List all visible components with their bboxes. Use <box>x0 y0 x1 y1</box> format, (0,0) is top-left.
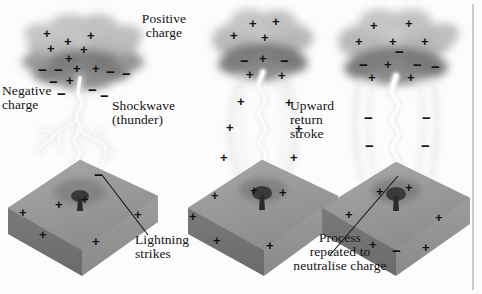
charge-minus: − <box>106 64 115 79</box>
charge-plus: + <box>211 189 219 202</box>
charge-plus: + <box>405 181 413 194</box>
label-upward-return-stroke: Upward return stroke <box>290 99 362 141</box>
charge-plus: + <box>92 62 100 75</box>
charge-minus: − <box>422 110 431 125</box>
charge-plus: + <box>226 121 234 134</box>
charge-plus: + <box>73 62 81 75</box>
charge-minus: − <box>94 167 103 182</box>
charge-plus: + <box>87 29 95 42</box>
charge-minus: − <box>431 59 440 74</box>
charge-minus: − <box>359 57 368 72</box>
charge-plus: + <box>220 151 228 164</box>
charge-plus: + <box>421 35 429 48</box>
charge-plus: + <box>272 15 280 28</box>
charge-plus: + <box>81 193 89 206</box>
label-positive-charge: Positive charge <box>118 12 210 40</box>
charge-plus: + <box>65 52 73 65</box>
charge-plus: + <box>237 95 245 108</box>
charge-plus: + <box>370 19 378 32</box>
charge-plus: + <box>134 208 142 221</box>
charge-plus: + <box>422 241 430 254</box>
charge-plus: + <box>376 185 384 198</box>
charge-minus: − <box>421 138 430 153</box>
charge-plus: + <box>55 198 63 211</box>
charge-plus: + <box>249 17 257 30</box>
charge-plus: + <box>345 208 353 221</box>
charge-plus: + <box>47 42 55 55</box>
charge-minus: − <box>88 82 97 97</box>
charge-plus: + <box>189 210 197 223</box>
charge-minus: − <box>122 66 131 81</box>
charge-plus: + <box>368 71 376 84</box>
charge-plus: + <box>405 17 413 30</box>
charge-plus: + <box>92 235 100 248</box>
charge-plus: + <box>407 71 415 84</box>
charge-plus: + <box>384 58 392 71</box>
charge-minus: − <box>364 110 373 125</box>
charge-plus: + <box>259 52 267 65</box>
charge-minus: − <box>395 44 404 59</box>
charge-minus: − <box>240 53 249 68</box>
label-process-repeated: Process repeated to neutralise charge <box>268 231 412 273</box>
charge-minus: − <box>100 88 109 103</box>
figure-canvas: + + + + + + − − + + − − + − − − − − + + … <box>0 0 482 294</box>
charge-plus: + <box>80 43 88 56</box>
charge-plus: + <box>39 228 47 241</box>
charge-plus: + <box>261 31 269 44</box>
label-negative-charge: Negative charge <box>2 84 78 112</box>
charge-plus: + <box>290 151 298 164</box>
charge-plus: + <box>43 27 51 40</box>
charge-plus: + <box>19 206 27 219</box>
charge-plus: + <box>278 69 286 82</box>
charge-plus: + <box>250 184 258 197</box>
charge-minus: − <box>38 62 47 77</box>
charge-plus: + <box>246 68 254 81</box>
charge-plus: + <box>230 29 238 42</box>
charge-plus: + <box>355 35 363 48</box>
charge-minus: − <box>365 138 374 153</box>
charge-plus: + <box>279 186 287 199</box>
charge-plus: + <box>435 211 443 224</box>
label-shockwave-thunder: Shockwave (thunder) <box>112 99 204 127</box>
charge-plus: + <box>64 35 72 48</box>
charge-minus: − <box>280 53 289 68</box>
label-lightning-strikes: Lightning strikes <box>135 233 219 261</box>
